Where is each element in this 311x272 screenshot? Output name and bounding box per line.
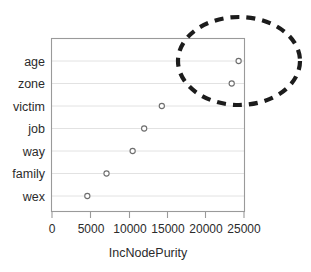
x-tick-label-4: 20000 xyxy=(189,222,223,236)
category-label-zone: zone xyxy=(18,77,45,91)
data-point-family xyxy=(104,171,109,176)
data-point-job xyxy=(142,126,147,131)
x-tick-label-1: 5000 xyxy=(78,222,105,236)
x-tick-label-3: 15000 xyxy=(151,222,185,236)
x-tick-label-2: 10000 xyxy=(113,222,147,236)
data-point-wex xyxy=(85,193,90,198)
data-point-zone xyxy=(229,81,234,86)
data-point-age xyxy=(236,58,241,63)
category-label-victim: victim xyxy=(13,100,45,114)
category-label-age: age xyxy=(24,55,45,69)
category-label-job: job xyxy=(27,122,45,136)
category-label-family: family xyxy=(12,167,45,181)
variable-importance-chart: 0 5000 10000 15000 20000 25000 IncNodePu… xyxy=(0,0,311,272)
data-point-victim xyxy=(159,103,164,108)
category-label-way: way xyxy=(22,145,46,159)
x-tick-label-5: 25000 xyxy=(227,222,261,236)
dotchart-svg: 0 5000 10000 15000 20000 25000 IncNodePu… xyxy=(0,0,311,272)
x-axis-title: IncNodePurity xyxy=(109,246,188,260)
x-tick-label-0: 0 xyxy=(49,222,56,236)
x-axis-tick-labels: 0 5000 10000 15000 20000 25000 xyxy=(49,222,261,236)
category-label-wex: wex xyxy=(22,190,46,204)
data-point-way xyxy=(130,148,135,153)
